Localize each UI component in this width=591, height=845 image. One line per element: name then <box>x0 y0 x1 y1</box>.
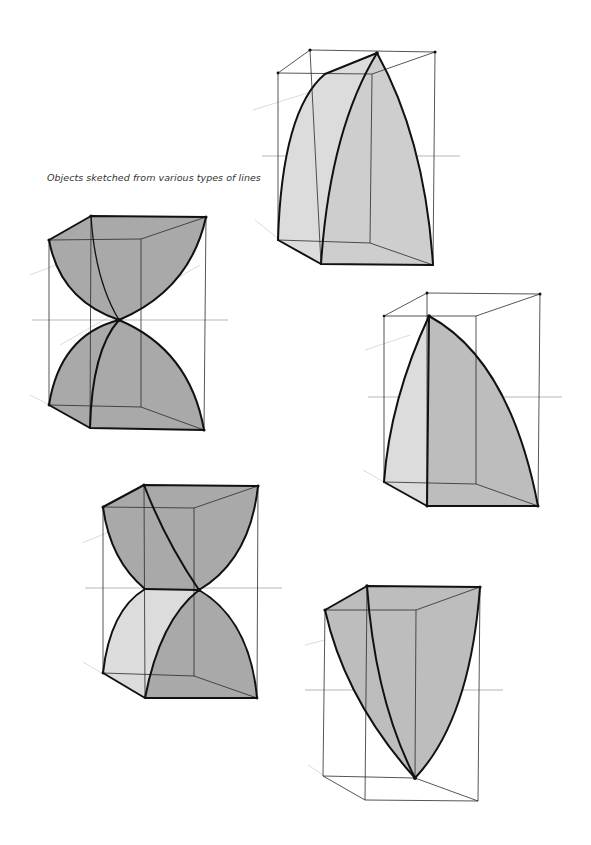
figure-3-quarter-arch <box>363 292 562 508</box>
sketch-canvas <box>0 0 591 845</box>
figure-1-curved-wedge <box>253 48 460 265</box>
figure-2-hourglass <box>30 214 228 431</box>
figure-5-inverted-wedge <box>305 584 503 801</box>
figure-4-twisted-hourglass <box>82 483 282 699</box>
